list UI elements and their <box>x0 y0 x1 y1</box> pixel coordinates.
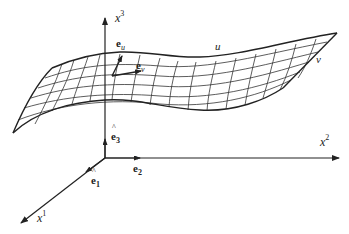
v-param-label: v <box>316 54 321 65</box>
e-v-label: ev <box>136 60 144 71</box>
u-param-label: u <box>215 41 221 52</box>
e2-label: e2 <box>133 163 142 174</box>
e-u-label: eu <box>116 38 125 49</box>
e3-label: e3 <box>111 131 120 142</box>
diagram-canvas: x3 x2 x1 e3 e2 e1 eu ev u v <box>0 0 349 234</box>
x2-axis-label: x2 <box>320 136 329 148</box>
e-u-vector <box>112 56 122 76</box>
diagram-svg <box>0 0 349 234</box>
surface-grid <box>18 39 327 124</box>
x3-axis-label: x3 <box>115 12 124 24</box>
x1-axis-label: x1 <box>37 212 46 224</box>
e1-label: e1 <box>91 175 100 186</box>
surface-boundary <box>13 33 337 133</box>
